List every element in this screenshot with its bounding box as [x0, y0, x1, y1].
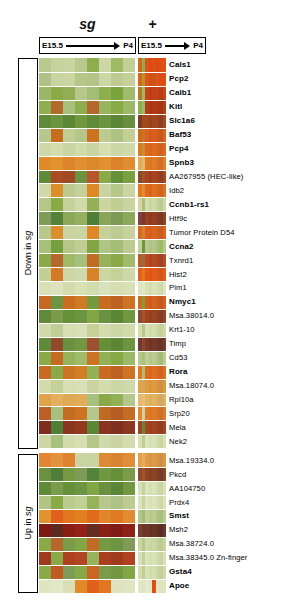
heatmap-cell	[63, 580, 75, 593]
heatmap-cell	[163, 394, 167, 407]
heatmap-cell	[63, 87, 75, 100]
gene-label: Msa.19334.0	[169, 453, 303, 467]
gene-label: Baf53	[169, 128, 303, 142]
heatmap-cell	[87, 296, 99, 309]
heatmap-cell	[87, 482, 99, 495]
heatmap-row	[39, 211, 166, 225]
heatmap-panel-right	[138, 366, 166, 379]
heatmap-cell	[111, 157, 123, 170]
heatmap-row	[39, 197, 166, 211]
heatmap-cell	[63, 453, 75, 467]
heatmap-cell	[39, 407, 51, 420]
heatmap-cell	[39, 524, 51, 537]
gene-label: Txnrd1	[169, 253, 303, 267]
heatmap-cell	[63, 171, 75, 184]
heatmap-cell	[63, 198, 75, 211]
heatmap-cell	[51, 87, 63, 100]
heatmap-cell	[39, 115, 51, 128]
heatmap-cell	[39, 421, 51, 434]
heatmap-cell	[163, 482, 167, 495]
heatmap-cell	[51, 338, 63, 351]
heatmap-cell	[39, 171, 51, 184]
heatmap-panel-right	[138, 566, 166, 579]
heatmap-cell	[163, 157, 167, 170]
heatmap-cell	[75, 352, 87, 365]
heatmap-cell	[51, 453, 63, 467]
heatmap-cell	[75, 366, 87, 379]
heatmap-cell	[75, 510, 87, 523]
heatmap-cell	[163, 366, 167, 379]
heatmap-row	[39, 523, 166, 537]
heatmap-row	[39, 393, 166, 407]
heatmap-cell	[39, 87, 51, 100]
heatmap-panel-right	[138, 580, 166, 593]
heatmap-cell	[163, 240, 167, 253]
heatmap-cell	[163, 212, 167, 225]
heatmap-cell	[39, 453, 51, 467]
heatmap-cell	[163, 115, 167, 128]
gene-label: Pcp4	[169, 142, 303, 156]
heatmap-cell	[51, 496, 63, 509]
heatmap-cell	[111, 324, 123, 337]
heatmap-cell	[123, 143, 135, 156]
heatmap-cell	[87, 87, 99, 100]
heatmap-row	[39, 351, 166, 365]
heatmap-figure: sg + E15.5 P4 E15.5 P4 Down in sg Up in …	[0, 0, 303, 607]
heatmap-cell	[123, 453, 135, 467]
heatmap-cell	[87, 240, 99, 253]
heatmap-cell	[51, 380, 63, 393]
heatmap-cell	[111, 268, 123, 281]
heatmap-cell	[163, 73, 167, 86]
heatmap-cell	[63, 115, 75, 128]
heatmap-cell	[87, 226, 99, 239]
gene-label: Timp	[169, 337, 303, 351]
heatmap-cell	[99, 212, 111, 225]
heatmap-cell	[63, 435, 75, 448]
heatmap-cell	[87, 157, 99, 170]
heatmap-cell	[63, 310, 75, 323]
heatmap-cell	[51, 552, 63, 565]
gene-label: Hist2	[169, 267, 303, 281]
gene-label: Gsta4	[169, 565, 303, 579]
heatmap-panel-left	[39, 101, 135, 114]
heatmap-cell	[111, 524, 123, 537]
gene-label: Mela	[169, 420, 303, 434]
heatmap-cell	[163, 538, 167, 551]
heatmap-cell	[99, 101, 111, 114]
heatmap-cell	[75, 171, 87, 184]
heatmap-cell	[75, 380, 87, 393]
gene-label: Rpl10a	[169, 393, 303, 407]
right-arrow-icon	[66, 42, 120, 50]
heatmap-panel-right	[138, 73, 166, 86]
heatmap-cell	[87, 184, 99, 197]
heatmap-cell	[75, 552, 87, 565]
heatmap-row	[39, 551, 166, 565]
right-arrow-icon	[165, 42, 190, 50]
heatmap-cell	[163, 453, 167, 467]
heatmap-cell	[87, 580, 99, 593]
heatmap-cell	[123, 282, 135, 295]
heatmap-cell	[75, 115, 87, 128]
heatmap-cell	[163, 421, 167, 434]
heatmap-cell	[75, 226, 87, 239]
heatmap-cell	[99, 73, 111, 86]
heatmap-cell	[87, 268, 99, 281]
gene-label: Nmyc1	[169, 295, 303, 309]
heatmap-cell	[75, 435, 87, 448]
heatmap-row	[39, 420, 166, 434]
heatmap-cell	[87, 143, 99, 156]
heatmap-panel-right	[138, 198, 166, 211]
heatmap-cell	[99, 143, 111, 156]
heatmap-cell	[39, 552, 51, 565]
heatmap-cell	[75, 87, 87, 100]
heatmap-panel-right	[138, 268, 166, 281]
heatmap-cell	[163, 338, 167, 351]
heatmap-row	[39, 309, 166, 323]
heatmap-panel-right	[138, 394, 166, 407]
gene-label: Nek2	[169, 434, 303, 448]
heatmap-cell	[111, 380, 123, 393]
heatmap-cell	[63, 226, 75, 239]
heatmap-cell	[51, 352, 63, 365]
heatmap-cell	[87, 366, 99, 379]
heatmap-cell	[99, 453, 111, 467]
